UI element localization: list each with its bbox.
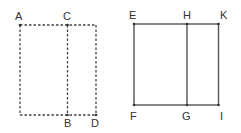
- label-i: I: [220, 110, 223, 122]
- left-figure: [20, 25, 96, 115]
- point-c: [66, 24, 69, 27]
- point-h: [186, 23, 189, 26]
- rect-efik: [134, 24, 219, 105]
- point-i: [217, 104, 220, 107]
- label-f: F: [130, 110, 137, 122]
- point-d: [95, 114, 98, 117]
- point-k: [217, 23, 220, 26]
- right-figure-points: [133, 23, 220, 107]
- point-e: [133, 23, 136, 26]
- label-g: G: [182, 110, 191, 122]
- label-e: E: [129, 9, 136, 21]
- label-k: K: [220, 9, 228, 21]
- point-b: [66, 114, 69, 117]
- point-f: [133, 104, 136, 107]
- left-figure-points: [19, 24, 98, 117]
- label-a: A: [15, 10, 23, 22]
- right-figure: [134, 24, 219, 105]
- label-c: C: [63, 10, 71, 22]
- point-g: [186, 104, 189, 107]
- label-b: B: [64, 117, 71, 129]
- diagram-canvas: A C B D E H K F G I: [0, 0, 241, 133]
- label-d: D: [91, 117, 99, 129]
- label-h: H: [183, 9, 191, 21]
- point-a: [19, 24, 22, 27]
